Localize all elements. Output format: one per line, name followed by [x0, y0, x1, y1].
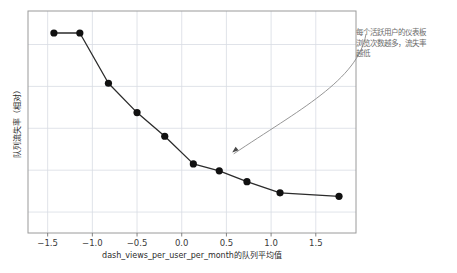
data-point-6: [216, 167, 223, 174]
annotation-line-1: 每个活跃用户的仪表板: [356, 28, 422, 39]
x-tick-label-6: 1.5: [309, 238, 323, 248]
data-point-1: [76, 29, 83, 36]
annotation-line-3: 越低: [356, 49, 422, 60]
x-tick-label-2: −0.5: [127, 238, 148, 248]
x-tick-label-3: 0.0: [175, 238, 189, 248]
annotation-label: 每个活跃用户的仪表板 浏览次数越多，流失率 越低: [356, 28, 422, 60]
data-point-7: [243, 178, 250, 185]
x-tick-label-5: 1.0: [264, 238, 278, 248]
x-axis-tick-marks: [48, 233, 316, 237]
x-tick-label-1: −1.0: [82, 238, 103, 248]
data-point-5: [190, 160, 197, 167]
data-point-2: [105, 80, 112, 87]
x-axis-title: dash_views_per_user_per_month的队列平均值: [102, 250, 282, 260]
data-point-3: [133, 109, 140, 116]
data-point-4: [161, 133, 168, 140]
x-axis-tick-labels: −1.5−1.0−0.50.00.51.01.5: [37, 238, 322, 248]
data-point-8: [276, 189, 283, 196]
x-tick-label-4: 0.5: [220, 238, 234, 248]
y-axis-title: 队列流失率（相对）: [12, 86, 22, 158]
data-point-9: [335, 193, 342, 200]
data-point-0: [50, 29, 57, 36]
annotation-line-2: 浏览次数越多，流失率: [356, 39, 422, 50]
churn-vs-dashboard-views-chart: −1.5−1.0−0.50.00.51.01.5 dash_views_per_…: [0, 0, 457, 273]
x-tick-label-0: −1.5: [37, 238, 58, 248]
